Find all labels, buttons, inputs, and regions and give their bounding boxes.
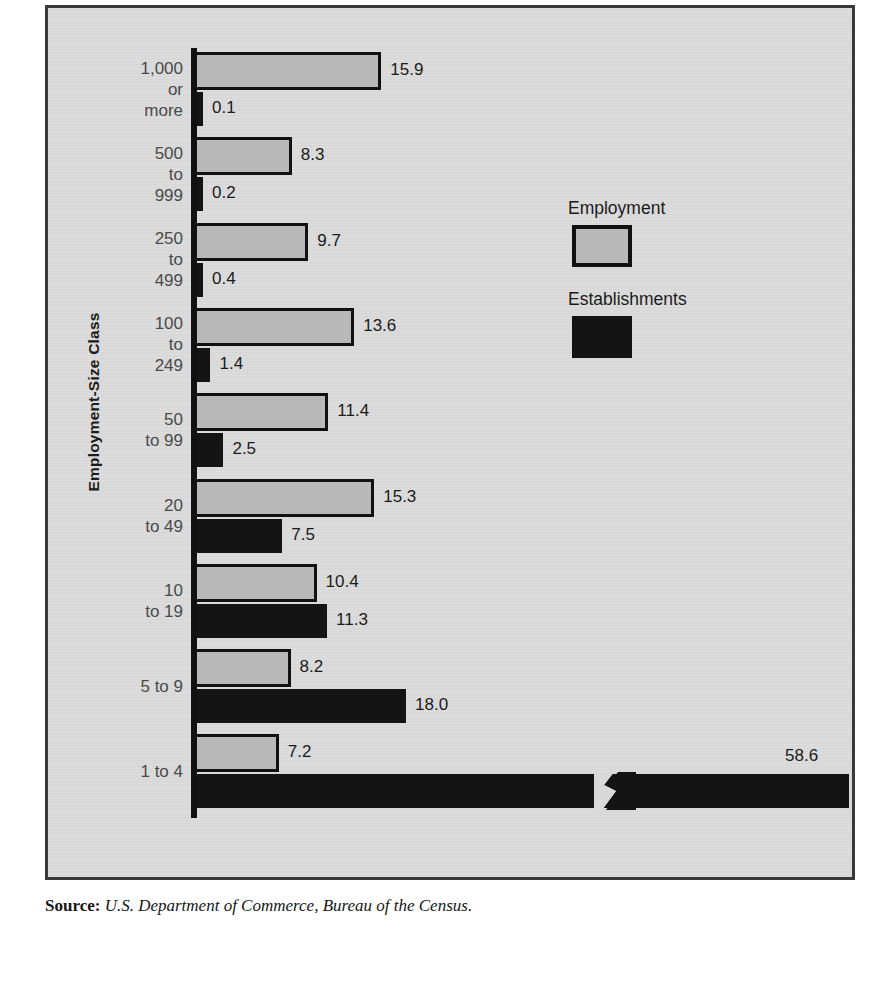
value-label-establishments: 1.4	[219, 354, 243, 374]
legend-label-employment: Employment	[568, 198, 687, 219]
source-text: U.S. Department of Commerce, Bureau of t…	[105, 896, 473, 915]
bar-employment	[194, 649, 291, 687]
value-label-employment: 9.7	[317, 231, 341, 251]
category-label: 50 to 99	[53, 409, 183, 451]
bar-employment	[194, 564, 317, 602]
value-label-employment: 7.2	[288, 742, 312, 762]
category-label: 10 to 19	[53, 580, 183, 622]
chart-row: 100 to 24913.61.4	[148, 308, 838, 393]
value-label-employment: 13.6	[363, 316, 396, 336]
value-label-establishments: 11.3	[336, 610, 368, 630]
bar-establishments	[194, 433, 223, 467]
bar-employment	[194, 393, 328, 431]
legend-swatch-employment	[572, 225, 632, 267]
value-label-establishments: 18.0	[415, 695, 448, 715]
value-label-employment: 11.4	[337, 401, 369, 421]
chart-row: 250 to 4999.70.4	[148, 223, 838, 308]
category-label: 1,000 or more	[53, 58, 183, 121]
legend-label-establishments: Establishments	[568, 289, 687, 310]
category-axis-line	[191, 48, 197, 818]
chart-figure-panel: Employment-Size Class 1,000 or more15.90…	[45, 5, 855, 880]
bar-employment	[194, 52, 381, 90]
value-label-establishments: 2.5	[232, 439, 256, 459]
value-label-employment: 8.3	[301, 145, 325, 165]
value-label-establishments: 0.4	[212, 269, 236, 289]
bar-employment	[194, 137, 292, 175]
bar-employment	[194, 734, 279, 772]
category-label: 20 to 49	[53, 495, 183, 537]
plot-area: 1,000 or more15.90.1500 to 9998.30.2250 …	[148, 48, 838, 828]
chart-row: 5 to 98.218.0	[148, 649, 838, 734]
bar-employment	[194, 308, 354, 346]
axis-break-mark	[594, 772, 636, 810]
category-label: 1 to 4	[53, 761, 183, 782]
value-label-employment: 8.2	[300, 657, 324, 677]
bar-establishments	[194, 774, 849, 808]
chart-row: 1,000 or more15.90.1	[148, 52, 838, 137]
bar-establishments	[194, 604, 327, 638]
bar-employment	[194, 223, 308, 261]
source-note: Source: U.S. Department of Commerce, Bur…	[45, 896, 472, 916]
value-label-establishments: 58.6	[785, 746, 818, 766]
category-label: 250 to 499	[53, 228, 183, 291]
value-label-employment: 15.3	[383, 487, 416, 507]
chart-row: 10 to 1910.411.3	[148, 564, 838, 649]
legend-swatch-establishments	[572, 316, 632, 358]
category-label: 500 to 999	[53, 143, 183, 206]
chart-row: 20 to 4915.37.5	[148, 479, 838, 564]
value-label-employment: 10.4	[326, 572, 359, 592]
value-label-establishments: 7.5	[291, 525, 315, 545]
chart-legend: Employment Establishments	[568, 198, 687, 380]
bar-establishments	[194, 689, 406, 723]
chart-row: 500 to 9998.30.2	[148, 137, 838, 222]
category-label: 5 to 9	[53, 676, 183, 697]
value-label-establishments: 0.2	[212, 183, 236, 203]
value-label-employment: 15.9	[390, 60, 423, 80]
bar-employment	[194, 479, 374, 517]
value-label-establishments: 0.1	[212, 98, 236, 118]
chart-row: 1 to 47.258.6	[148, 734, 838, 819]
source-label: Source:	[45, 896, 100, 915]
bar-establishments	[194, 519, 282, 553]
category-label: 100 to 249	[53, 313, 183, 376]
chart-row: 50 to 9911.42.5	[148, 393, 838, 478]
